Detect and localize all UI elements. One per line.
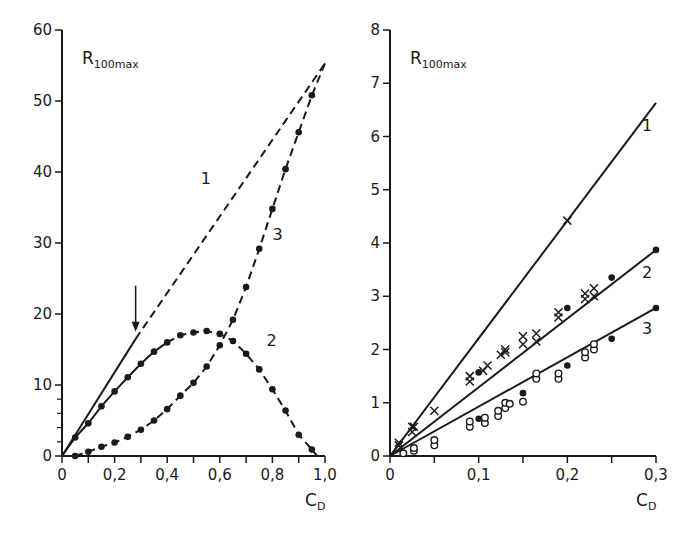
- arrow-down-icon: [132, 322, 140, 332]
- filled-point: [564, 305, 571, 312]
- open-circle-point: [555, 370, 562, 377]
- cross-point: [554, 308, 562, 316]
- data-point: [138, 360, 145, 367]
- filled-point: [475, 415, 482, 422]
- data-point: [151, 348, 158, 355]
- x-tick-label: 0: [385, 466, 395, 484]
- y-tick-label: 40: [33, 163, 52, 181]
- open-circle-point: [591, 341, 598, 348]
- y-axis-title-main: R: [82, 48, 94, 68]
- curve-label-2: 2: [642, 263, 652, 282]
- data-point: [243, 284, 250, 291]
- y-tick-label: 60: [33, 21, 52, 39]
- data-point: [164, 339, 171, 346]
- left-chart: 010203040506000,20,40,60,81,0R100maxCD12…: [33, 21, 337, 513]
- filled-point: [608, 274, 615, 281]
- x-tick-label: 0,2: [103, 466, 127, 484]
- curve-label-3: 3: [642, 319, 652, 338]
- data-point: [256, 366, 263, 373]
- curve-1-dashed: [136, 63, 325, 338]
- filled-point: [520, 390, 527, 397]
- y-tick-label: 8: [370, 21, 380, 39]
- cross-point: [563, 217, 571, 225]
- data-point: [203, 328, 210, 335]
- data-point: [72, 434, 79, 441]
- data-point: [177, 392, 184, 399]
- data-point: [190, 329, 197, 336]
- data-point: [295, 129, 302, 136]
- cross-point: [590, 284, 598, 292]
- open-circle-point: [411, 445, 418, 452]
- curve-2-dashed: [167, 331, 317, 456]
- y-tick-label: 30: [33, 234, 52, 252]
- curve-label-3: 3: [273, 225, 283, 244]
- filled-point: [653, 305, 660, 312]
- y-tick-label: 10: [33, 376, 52, 394]
- cross-point: [519, 340, 527, 348]
- open-circle-point: [582, 349, 589, 356]
- cross-point: [484, 361, 492, 369]
- open-circle-point: [520, 398, 527, 405]
- data-point: [269, 386, 276, 393]
- x-tick-label: 0,4: [155, 466, 179, 484]
- data-point: [98, 443, 105, 450]
- x-axis-title: CD: [305, 490, 325, 513]
- y-tick-label: 50: [33, 92, 52, 110]
- x-axis-title-main: C: [636, 490, 648, 510]
- filled-point: [608, 336, 615, 343]
- data-point: [138, 426, 145, 433]
- y-tick-label: 0: [370, 447, 380, 465]
- x-tick-label: 0,2: [555, 466, 579, 484]
- data-point: [217, 331, 224, 338]
- filled-point: [653, 247, 660, 254]
- x-tick-label: 0: [57, 466, 67, 484]
- figure: 010203040506000,20,40,60,81,0R100maxCD12…: [0, 0, 685, 535]
- curve-label-1: 1: [201, 169, 211, 188]
- y-tick-label: 4: [370, 234, 380, 252]
- data-point: [217, 342, 224, 349]
- data-point: [256, 245, 263, 252]
- data-point: [295, 431, 302, 438]
- data-point: [190, 380, 197, 387]
- y-axis-title: R100max: [410, 48, 467, 71]
- y-axis-title-main: R: [410, 48, 422, 68]
- data-point: [309, 92, 316, 99]
- filled-point: [564, 362, 571, 369]
- y-tick-label: 0: [42, 447, 52, 465]
- data-point: [151, 417, 158, 424]
- data-point: [309, 446, 316, 453]
- x-tick-label: 0,3: [644, 466, 668, 484]
- y-axis-title-sub: 100max: [422, 58, 467, 71]
- open-circle-point: [400, 450, 407, 457]
- y-tick-label: 7: [370, 74, 380, 92]
- x-axis-title-sub: D: [648, 500, 656, 513]
- data-point: [98, 403, 105, 410]
- x-tick-label: 0,6: [208, 466, 232, 484]
- curve-label-1: 1: [642, 116, 652, 135]
- cross-point: [581, 290, 589, 298]
- cross-point: [519, 332, 527, 340]
- data-point: [85, 420, 92, 427]
- y-tick-label: 2: [370, 341, 380, 359]
- data-point: [230, 338, 237, 345]
- open-circle-point: [482, 414, 489, 421]
- y-tick-label: 5: [370, 181, 380, 199]
- open-circle-point: [467, 418, 474, 425]
- y-tick-label: 6: [370, 128, 380, 146]
- data-point: [85, 448, 92, 455]
- x-axis-title: CD: [636, 490, 656, 513]
- y-tick-label: 20: [33, 305, 52, 323]
- curve-label-2: 2: [267, 331, 277, 350]
- x-axis-title-main: C: [305, 490, 317, 510]
- data-point: [111, 388, 118, 395]
- y-axis-title: R100max: [82, 48, 139, 71]
- cross-point: [430, 407, 438, 415]
- data-point: [243, 350, 250, 357]
- x-tick-label: 0,8: [260, 466, 284, 484]
- y-tick-label: 3: [370, 287, 380, 305]
- data-point: [282, 407, 289, 414]
- data-point: [282, 166, 289, 173]
- cross-point: [532, 330, 540, 338]
- data-point: [203, 363, 210, 370]
- x-axis-title-sub: D: [317, 500, 325, 513]
